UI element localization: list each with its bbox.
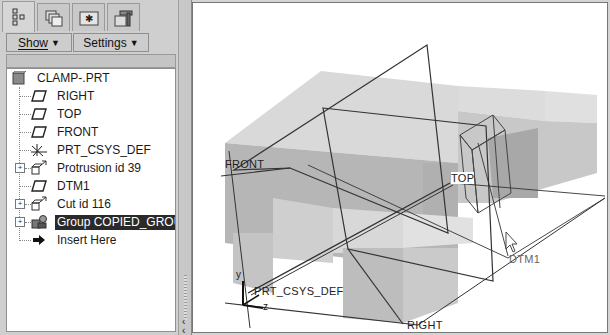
graphics-window[interactable]: FRONT TOP RIGHT DTM1 PRT_CSYS_DEF y z [192, 2, 608, 333]
settings-dropdown[interactable]: Settings ▼ [73, 33, 149, 52]
model-tree-icon [11, 8, 27, 26]
show-dropdown[interactable]: Show ▼ [6, 33, 72, 52]
tree-item-right[interactable]: RIGHT [29, 87, 96, 105]
chevron-down-icon: ▼ [51, 38, 60, 48]
datum-plane-icon [29, 178, 49, 194]
tree-root-label: CLAMP-.PRT [35, 71, 111, 86]
tree-item-dtm1[interactable]: DTM1 [29, 177, 92, 195]
datum-label-front[interactable]: FRONT [225, 158, 264, 170]
datum-plane-icon [29, 88, 49, 104]
chevron-down-icon: ▼ [130, 38, 139, 48]
datum-label-right[interactable]: RIGHT [407, 319, 443, 331]
tools-folder-icon [113, 8, 135, 28]
tree-item-label: Group COPIED_GROUP [55, 215, 176, 230]
tree-item-label: Protrusion id 39 [55, 161, 143, 176]
connections-tab[interactable] [107, 3, 140, 31]
tree-item-top[interactable]: TOP [29, 105, 83, 123]
navigator-tabs: ✱ [0, 0, 178, 32]
insert-arrow-icon [29, 232, 49, 248]
tree-item-label: Insert Here [55, 233, 118, 248]
tree-root[interactable]: CLAMP-.PRT [9, 69, 111, 87]
navigator-panel: ✱ Show ▼ Settings ▼ CLAMP-.PRT [0, 0, 179, 335]
expand-toggle[interactable]: + [15, 217, 25, 227]
tree-item-label: RIGHT [55, 89, 96, 104]
navigator-toolbar: Show ▼ Settings ▼ [6, 33, 176, 53]
tree-item-label: FRONT [55, 125, 100, 140]
axis-label-y: y [236, 269, 241, 280]
model-tree: CLAMP-.PRT RIGHT TOP FRONT [6, 68, 176, 332]
tree-item-cut[interactable]: Cut id 116 [29, 195, 113, 213]
folder-browser-tab[interactable] [37, 3, 70, 31]
part-icon [9, 70, 29, 86]
folder-stack-icon [44, 9, 64, 27]
creo-window: ✱ Show ▼ Settings ▼ CLAMP-.PRT [0, 0, 610, 335]
splitter-grip[interactable] [184, 275, 187, 320]
datum-plane-icon [29, 106, 49, 122]
svg-text:✱: ✱ [85, 13, 93, 24]
favorites-tab[interactable]: ✱ [72, 3, 105, 31]
tree-item-csys[interactable]: PRT_CSYS_DEF [29, 141, 153, 159]
tree-item-protrusion[interactable]: Protrusion id 39 [29, 159, 143, 177]
folder-star-icon: ✱ [79, 10, 99, 26]
filter-strip [6, 54, 176, 68]
panel-splitter[interactable]: ‹ ‹ [178, 0, 192, 335]
settings-label: Settings [83, 36, 126, 50]
datum-label-top[interactable]: TOP [451, 172, 474, 184]
extrude-feature-icon [29, 160, 49, 176]
group-icon [29, 214, 49, 230]
show-label: Show [18, 36, 48, 50]
tree-item-group[interactable]: Group COPIED_GROUP [29, 213, 176, 231]
extrude-feature-icon [29, 196, 49, 212]
tree-item-label: DTM1 [55, 179, 92, 194]
model-tree-tab[interactable] [2, 1, 35, 32]
expand-toggle[interactable]: + [15, 163, 25, 173]
expand-toggle[interactable]: + [15, 199, 25, 209]
tree-item-label: TOP [55, 107, 83, 122]
csys-label[interactable]: PRT_CSYS_DEF [254, 285, 344, 297]
tree-item-front[interactable]: FRONT [29, 123, 100, 141]
datum-label-dtm1[interactable]: DTM1 [509, 253, 540, 265]
tree-item-label: PRT_CSYS_DEF [55, 143, 153, 158]
tree-item-insert-here[interactable]: Insert Here [29, 231, 118, 249]
tree-item-label: Cut id 116 [55, 197, 113, 212]
datum-plane-icon [29, 124, 49, 140]
collapse-arrow-icon[interactable]: ‹ [182, 325, 185, 335]
axis-label-z: z [263, 301, 268, 312]
coordinate-system-icon [29, 142, 49, 158]
